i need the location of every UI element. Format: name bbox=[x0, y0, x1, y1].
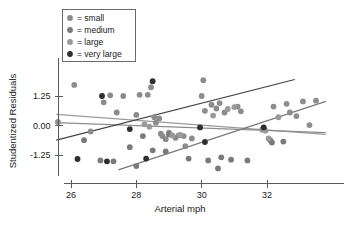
data-point bbox=[137, 92, 143, 98]
data-point bbox=[294, 113, 300, 119]
data-point bbox=[238, 108, 244, 114]
data-point bbox=[280, 139, 286, 145]
data-point bbox=[189, 136, 195, 142]
y-axis-tick-label: 1.25 bbox=[33, 91, 51, 101]
data-point bbox=[245, 158, 251, 164]
data-point bbox=[225, 106, 231, 112]
data-point bbox=[213, 106, 219, 112]
data-point bbox=[228, 157, 234, 163]
data-point bbox=[287, 110, 293, 116]
data-point bbox=[99, 93, 105, 99]
data-point bbox=[215, 166, 221, 172]
data-point bbox=[163, 149, 169, 155]
data-point bbox=[133, 112, 139, 118]
y-axis-tick-label: 0.00 bbox=[33, 121, 51, 131]
data-point bbox=[178, 132, 184, 138]
data-point bbox=[127, 144, 133, 150]
data-point bbox=[217, 100, 223, 106]
data-point bbox=[182, 143, 188, 149]
data-point bbox=[147, 124, 153, 130]
data-point bbox=[104, 158, 110, 164]
x-axis-tick-label: 26 bbox=[66, 190, 76, 200]
data-point bbox=[127, 126, 133, 132]
legend-marker-icon bbox=[67, 51, 73, 57]
chart-legend[interactable]: = small= medium= large= very large bbox=[62, 9, 135, 61]
data-point bbox=[120, 93, 126, 99]
legend-item-label: = large bbox=[77, 37, 103, 47]
legend-item-label: = small bbox=[77, 13, 104, 23]
scatter-plot: 1.250.00-1.2526283032Arterial mphStudent… bbox=[0, 0, 345, 227]
data-point bbox=[307, 122, 313, 128]
x-axis-title: Arterial mph bbox=[154, 203, 205, 214]
data-point bbox=[218, 154, 224, 160]
data-point bbox=[151, 114, 157, 120]
data-point bbox=[197, 124, 203, 130]
data-point bbox=[199, 93, 205, 99]
data-point bbox=[202, 108, 208, 114]
data-point bbox=[313, 98, 319, 104]
data-point bbox=[101, 99, 107, 105]
data-point bbox=[209, 102, 215, 108]
data-point bbox=[205, 158, 211, 164]
legend-item-label: = medium bbox=[77, 25, 115, 35]
data-point bbox=[284, 101, 290, 107]
data-point bbox=[156, 116, 162, 122]
data-point bbox=[145, 92, 151, 98]
data-point bbox=[163, 136, 169, 142]
data-point bbox=[271, 104, 277, 110]
data-point bbox=[111, 158, 117, 164]
y-axis-tick-label: -1.25 bbox=[30, 150, 51, 160]
data-point bbox=[140, 133, 146, 139]
data-point bbox=[261, 124, 267, 130]
data-point bbox=[81, 137, 87, 143]
data-point bbox=[202, 139, 208, 145]
data-point bbox=[133, 163, 139, 169]
data-point bbox=[143, 156, 149, 162]
data-point bbox=[150, 147, 156, 153]
legend-marker-icon bbox=[67, 15, 73, 21]
data-point bbox=[55, 119, 61, 125]
data-point bbox=[71, 82, 77, 88]
data-point bbox=[98, 158, 104, 164]
data-point bbox=[210, 113, 216, 119]
data-point bbox=[107, 92, 113, 98]
data-point bbox=[75, 156, 81, 162]
data-point bbox=[200, 77, 206, 83]
legend-item-label: = very large bbox=[77, 49, 122, 59]
data-point bbox=[276, 114, 282, 120]
data-point bbox=[169, 133, 175, 139]
data-point bbox=[300, 99, 306, 105]
trend-line-layer bbox=[56, 79, 326, 169]
x-axis-tick-label: 32 bbox=[262, 190, 272, 200]
x-axis-tick-label: 30 bbox=[197, 190, 207, 200]
data-point bbox=[88, 129, 94, 135]
data-point bbox=[114, 110, 120, 116]
series-very-large bbox=[75, 78, 267, 164]
data-point bbox=[150, 78, 156, 84]
y-axis-title: Studentized Residuals bbox=[7, 73, 18, 168]
data-point bbox=[148, 84, 154, 90]
series-small bbox=[55, 77, 319, 149]
legend-marker-icon bbox=[67, 39, 73, 45]
data-point bbox=[231, 104, 237, 110]
chart-figure: 1.250.00-1.2526283032Arterial mphStudent… bbox=[0, 0, 345, 227]
legend-marker-icon bbox=[67, 27, 73, 33]
data-point bbox=[186, 156, 192, 162]
x-axis-tick-label: 28 bbox=[131, 190, 141, 200]
data-point bbox=[266, 136, 272, 142]
